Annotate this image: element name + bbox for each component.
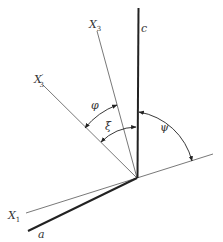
angle-diagram: c X3 X′3 X1 a φ ξ ψ xyxy=(0,0,223,242)
psi-arc xyxy=(139,112,192,161)
xi-angle-label: ξ xyxy=(105,120,112,133)
x3-axis-label: X3 xyxy=(88,18,101,33)
phi-arc xyxy=(85,105,117,128)
x1-axis-label: X1 xyxy=(7,209,20,224)
a-axis-line xyxy=(28,178,137,231)
x3-prime-axis-label: X′3 xyxy=(33,73,44,89)
phi-angle-label: φ xyxy=(91,99,99,112)
c-axis-line xyxy=(138,8,139,178)
x3-axis-line xyxy=(97,31,137,178)
a-axis-label: a xyxy=(38,228,45,241)
c-axis-label: c xyxy=(141,22,147,35)
x3-prime-axis-line xyxy=(43,85,137,178)
x1-axis-line xyxy=(26,154,213,213)
psi-angle-label: ψ xyxy=(160,121,169,134)
